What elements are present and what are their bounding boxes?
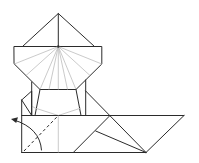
arrowhead-icon <box>11 117 18 123</box>
neck <box>22 80 86 116</box>
origami-diagram <box>0 0 199 163</box>
fold-annotation <box>11 116 58 152</box>
head-roof <box>23 14 95 47</box>
fold-arrow-icon <box>14 120 42 150</box>
radial-creases <box>14 47 102 90</box>
center-point <box>57 45 59 47</box>
head-face <box>14 45 102 89</box>
tail-flap <box>73 91 184 153</box>
